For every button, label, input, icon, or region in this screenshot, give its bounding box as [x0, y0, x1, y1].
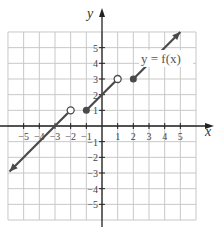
y-tick-label: −4 [87, 184, 98, 195]
y-tick-label: 3 [93, 74, 98, 85]
y-axis-arrow-icon [99, 8, 105, 17]
axes [0, 8, 214, 227]
x-tick-label: −3 [50, 131, 61, 142]
open-circle-icon [114, 75, 121, 82]
y-tick-label: −5 [87, 199, 98, 210]
y-tick-label: 1 [93, 105, 98, 116]
function-label: y = f(x) [141, 51, 181, 66]
x-axis-label: x [204, 124, 212, 139]
x-tick-label: −2 [65, 131, 76, 142]
y-tick-label: 5 [93, 43, 98, 54]
x-tick-label: −5 [18, 131, 29, 142]
y-tick-label: 4 [93, 58, 98, 69]
y-tick-label: −2 [87, 152, 98, 163]
open-circle-icon [67, 107, 74, 114]
closed-dot-icon [130, 75, 137, 82]
x-tick-label: 4 [162, 131, 167, 142]
x-tick-label: 5 [178, 131, 183, 142]
y-axis-label: y [85, 6, 94, 21]
x-tick-label: 1 [115, 131, 120, 142]
y-tick-label: −3 [87, 168, 98, 179]
x-tick-label: 2 [131, 131, 136, 142]
x-tick-label: 3 [147, 131, 152, 142]
closed-dot-icon [83, 107, 90, 114]
function-graph: −5−4−3−2−112345−5−4−3−2−112345 x y y = f… [0, 0, 216, 227]
y-tick-label: −1 [87, 137, 98, 148]
